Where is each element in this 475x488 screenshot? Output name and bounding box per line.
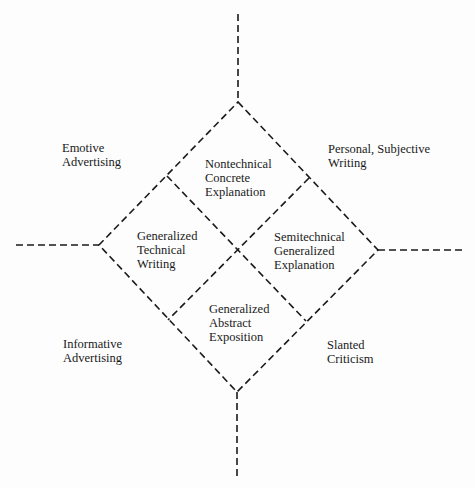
region-emotive-advertising: Emotive Advertising — [62, 141, 121, 169]
region-text-line: Emotive — [62, 141, 121, 155]
region-text-line: Personal, Subjective — [328, 142, 430, 156]
region-text-line: Generalized — [209, 302, 269, 316]
region-text-line: Technical — [137, 243, 197, 257]
region-text-line: Concrete — [205, 171, 272, 185]
region-text-line: Criticism — [327, 352, 374, 366]
region-text-line: Generalized — [137, 229, 197, 243]
region-slanted-criticism: Slanted Criticism — [327, 338, 374, 366]
diagram-lines — [0, 0, 475, 488]
region-generalized-abstract-exposition: Generalized Abstract Exposition — [209, 302, 269, 344]
region-text-line: Advertising — [63, 351, 122, 365]
region-text-line: Advertising — [62, 155, 121, 169]
region-semitechnical-generalized-explanation: Semitechnical Generalized Explanation — [274, 230, 345, 272]
region-informative-advertising: Informative Advertising — [63, 337, 122, 365]
region-generalized-technical-writing: Generalized Technical Writing — [137, 229, 197, 271]
region-text-line: Exposition — [209, 330, 269, 344]
region-text-line: Writing — [328, 156, 430, 170]
region-text-line: Nontechnical — [205, 157, 272, 171]
region-text-line: Semitechnical — [274, 230, 345, 244]
writing-types-diagram: Nontechnical Concrete Explanation Genera… — [0, 0, 475, 488]
region-text-line: Slanted — [327, 338, 374, 352]
region-text-line: Explanation — [205, 185, 272, 199]
region-text-line: Generalized — [274, 244, 345, 258]
region-text-line: Informative — [63, 337, 122, 351]
region-text-line: Explanation — [274, 258, 345, 272]
region-text-line: Writing — [137, 257, 197, 271]
region-text-line: Abstract — [209, 316, 269, 330]
region-personal-subjective-writing: Personal, Subjective Writing — [328, 142, 430, 170]
region-nontechnical-concrete-explanation: Nontechnical Concrete Explanation — [205, 157, 272, 199]
